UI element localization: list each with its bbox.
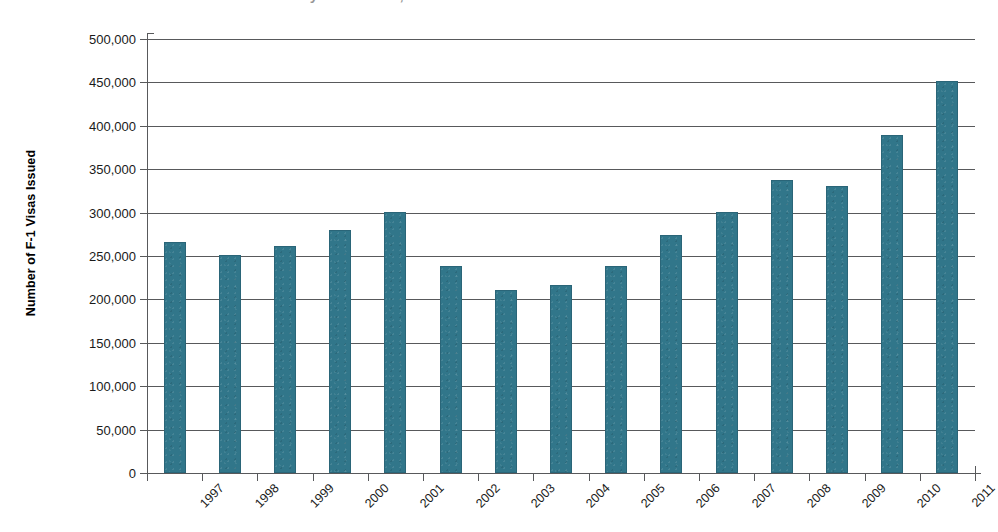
x-axis-tick-mark <box>423 473 424 481</box>
x-axis-tick-mark <box>865 473 866 481</box>
bar-2005 <box>605 266 627 473</box>
bar-1997 <box>164 242 186 473</box>
bar-1998 <box>219 255 241 473</box>
x-axis-tick-label-2007: 2007 <box>749 481 779 511</box>
y-axis-tick-label: 250,000 <box>52 249 136 264</box>
y-axis-tick-label: 200,000 <box>52 292 136 307</box>
y-axis-tick-mark <box>140 169 148 170</box>
gridline <box>147 213 975 214</box>
y-axis-tick-label: 0 <box>52 466 136 481</box>
gridline <box>147 169 975 170</box>
bar-2000 <box>329 230 351 473</box>
x-axis-tick-mark <box>589 473 590 481</box>
gridline <box>147 82 975 83</box>
y-axis-tick-label: 150,000 <box>52 335 136 350</box>
gridline <box>147 473 975 474</box>
y-axis-tick-mark <box>140 386 148 387</box>
y-axis-tick-label: 350,000 <box>52 162 136 177</box>
x-axis-tick-label-2010: 2010 <box>914 481 944 511</box>
x-axis-tick-label-2000: 2000 <box>362 481 392 511</box>
x-axis-tick-mark <box>809 473 810 481</box>
x-axis-tick-mark <box>368 473 369 481</box>
bar-2009 <box>826 186 848 473</box>
x-axis-tick-label-1998: 1998 <box>252 481 282 511</box>
y-axis-tick-mark <box>140 343 148 344</box>
bar-2003 <box>495 290 517 473</box>
x-axis-tick-mark <box>478 473 479 481</box>
x-axis-tick-label-1997: 1997 <box>197 481 227 511</box>
y-axis-tick-mark <box>140 126 148 127</box>
x-axis-tick-label-2011: 2011 <box>969 481 998 510</box>
x-axis-tick-mark <box>644 473 645 481</box>
y-axis-top-cap <box>147 33 154 34</box>
y-axis-tick-label: 400,000 <box>52 118 136 133</box>
bar-2008 <box>771 180 793 473</box>
x-axis-tick-label-2006: 2006 <box>694 481 724 511</box>
x-axis-tick-mark <box>257 473 258 481</box>
bar-1999 <box>274 246 296 473</box>
chart-title: Number of F-1 Student Visas Issued by Fi… <box>40 0 840 4</box>
plot-area <box>147 39 975 473</box>
x-axis-tick-label-2005: 2005 <box>638 481 668 511</box>
x-axis-tick-mark <box>313 473 314 481</box>
bar-2002 <box>440 266 462 473</box>
y-axis-tick-label: 50,000 <box>52 422 136 437</box>
x-axis-tick-mark <box>147 473 148 481</box>
y-axis-tick-mark <box>140 299 148 300</box>
x-axis-tick-mark <box>754 473 755 481</box>
y-axis-tick-label: 500,000 <box>52 32 136 47</box>
y-axis-tick-labels: 050,000100,000150,000200,000250,000300,0… <box>48 0 136 532</box>
y-axis-tick-mark <box>140 82 148 83</box>
x-axis-tick-mark <box>202 473 203 481</box>
x-axis-tick-mark <box>533 473 534 481</box>
bar-2011 <box>936 81 958 473</box>
gridline <box>147 39 975 40</box>
x-axis-tick-label-2008: 2008 <box>804 481 834 511</box>
bar-2010 <box>881 135 903 473</box>
x-axis-tick-mark <box>920 473 921 481</box>
y-axis-tick-label: 450,000 <box>52 75 136 90</box>
gridline <box>147 126 975 127</box>
bar-2006 <box>660 235 682 473</box>
y-axis-tick-label: 300,000 <box>52 205 136 220</box>
x-axis-tick-label-2001: 2001 <box>418 481 448 511</box>
bar-2001 <box>384 212 406 473</box>
x-axis-tick-mark <box>699 473 700 481</box>
y-axis-tick-mark <box>140 256 148 257</box>
x-axis-tick-label-2003: 2003 <box>528 481 558 511</box>
y-axis-tick-mark <box>140 213 148 214</box>
y-axis-tick-label: 100,000 <box>52 379 136 394</box>
x-axis-tick-label-2009: 2009 <box>859 481 889 511</box>
y-axis-tick-mark <box>140 39 148 40</box>
y-axis-title: Number of F-1 Visas Issued <box>24 103 38 363</box>
bar-2004 <box>550 285 572 473</box>
bar-2007 <box>716 212 738 473</box>
x-axis-tick-label-2004: 2004 <box>583 481 613 511</box>
x-axis-tick-mark <box>975 473 976 481</box>
x-axis-tick-label-2002: 2002 <box>473 481 503 511</box>
gridline <box>147 256 975 257</box>
x-axis-tick-label-1999: 1999 <box>307 481 337 511</box>
y-axis-tick-mark <box>140 430 148 431</box>
